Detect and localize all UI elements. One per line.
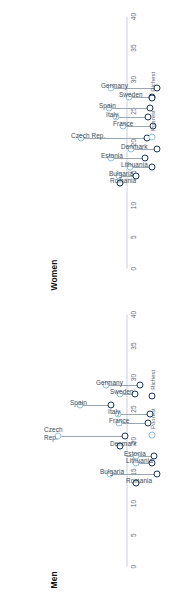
legend-item-richest[interactable]: Richest [148,369,155,399]
country-label: France [109,417,130,424]
x-tick: 10 [129,201,136,209]
richest-swatch-icon [148,94,155,101]
x-tick: 35 [129,44,136,52]
country-label: Spain [99,102,116,109]
country-label: Spain [70,399,87,406]
country-label: Romania [110,177,136,184]
country-label: Sweden [119,91,143,98]
poorest-swatch-icon [148,431,155,438]
country-label: Czech Rep. [44,426,74,441]
x-tick: 5 [129,235,136,239]
country-label: Sweden [110,388,134,395]
x-tick: 0 [129,564,136,568]
x-tick: 30 [129,373,136,381]
legend-item-poorest[interactable]: Poorest [148,408,155,438]
country-label: Lithuania [121,161,148,168]
legend-label-richest: Richest [149,71,155,91]
legend-women: Poorest Richest [148,71,155,140]
x-axis-women [126,16,127,268]
country-label: Bulgaria [109,170,133,177]
richest-dot[interactable] [153,471,160,478]
richest-dot[interactable] [107,402,114,409]
country-label: Germany [101,82,128,89]
x-tick: 0 [129,266,136,270]
legend-item-richest[interactable]: Richest [148,71,155,101]
x-tick: 35 [129,342,136,350]
richest-dot[interactable] [136,382,143,389]
chart-stage-men: Men 0 5 10 15 20 25 30 35 40 Romania Bul… [0,298,169,596]
x-tick: 30 [129,75,136,83]
country-label: France [113,120,134,127]
country-label: Czech Rep. [71,132,105,139]
panel-title-men: Men [48,571,58,588]
legend-label-poorest: Poorest [149,408,155,429]
x-tick: 40 [129,12,136,20]
plot-area-women [6,16,114,268]
country-label: Germany [96,379,123,386]
chart-stage-women: Women 0 5 10 15 20 25 30 35 40 Romania B… [0,0,169,298]
poorest-swatch-icon [148,133,155,140]
richest-dot[interactable] [121,433,128,440]
richest-dot[interactable] [150,453,157,460]
country-label: Denmark [110,440,137,447]
legend-men: Poorest Richest [148,369,155,438]
legend-item-poorest[interactable]: Poorest [148,110,155,140]
country-label: Estonia [101,152,123,159]
x-tick: 25 [129,405,136,413]
country-label: Denmark [121,143,148,150]
panel-women: Women 0 5 10 15 20 25 30 35 40 Romania B… [0,0,169,298]
country-label: Romania [126,477,152,484]
country-label: Estonia [124,450,146,457]
richest-dot[interactable] [148,164,155,171]
x-tick: 40 [129,310,136,318]
panel-men: Men 0 5 10 15 20 25 30 35 40 Romania Bul… [0,298,169,596]
x-tick: 5 [129,533,136,537]
richest-swatch-icon [148,392,155,399]
richest-dot[interactable] [141,155,148,162]
x-tick: 10 [129,499,136,507]
country-label: Italy [106,111,118,118]
richest-dot[interactable] [153,146,160,153]
legend-label-richest: Richest [149,369,155,389]
country-label: Italy [108,408,120,415]
legend-label-poorest: Poorest [149,110,155,131]
country-label: Bulgaria [100,468,124,475]
